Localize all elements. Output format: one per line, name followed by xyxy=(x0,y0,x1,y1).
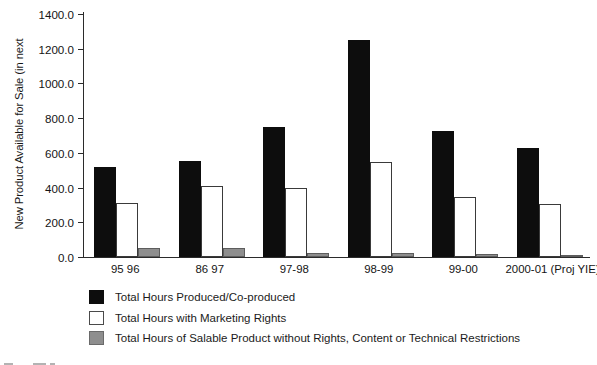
bar xyxy=(285,188,307,257)
y-axis-tick-label: 1000.0 xyxy=(39,77,74,90)
bar xyxy=(263,127,285,257)
y-axis-tick-label: 600.0 xyxy=(45,146,74,159)
bar xyxy=(517,148,539,257)
y-axis-tick xyxy=(78,83,84,84)
bar xyxy=(116,203,138,257)
legend-item: Total Hours Produced/Co-produced xyxy=(89,287,559,308)
bar xyxy=(179,161,201,257)
x-axis-tick-label: 2000-01 (Proj YIE) xyxy=(506,263,591,275)
legend-label: Total Hours with Marketing Rights xyxy=(115,312,286,324)
bar-group xyxy=(432,14,498,257)
bar xyxy=(348,40,370,257)
bar xyxy=(370,162,392,257)
y-axis-tick-label: 800.0 xyxy=(45,112,74,125)
bar xyxy=(94,167,116,257)
chart-legend: Total Hours Produced/Co-producedTotal Ho… xyxy=(89,287,559,349)
legend-swatch xyxy=(89,290,104,304)
y-axis-tick-label: 1400.0 xyxy=(39,8,74,21)
x-axis-tick-label: 97-98 xyxy=(252,263,337,275)
x-axis-tick-label: 99-00 xyxy=(421,263,506,275)
bar xyxy=(201,186,223,257)
bar xyxy=(392,253,414,257)
bar-chart: New Product Available for Sale (in next … xyxy=(0,0,597,365)
y-axis-tick xyxy=(78,188,84,189)
x-axis-line xyxy=(83,257,590,258)
legend-item: Total Hours with Marketing Rights xyxy=(89,308,559,329)
legend-swatch xyxy=(89,311,104,325)
y-axis-title: New Product Available for Sale (in next xyxy=(13,9,25,259)
bar xyxy=(539,204,561,257)
y-axis-tick xyxy=(78,14,84,15)
y-axis-tick-label: 1200.0 xyxy=(39,42,74,55)
y-axis-tick xyxy=(78,153,84,154)
x-axis-tick-label: 98-99 xyxy=(337,263,422,275)
legend-label: Total Hours Produced/Co-produced xyxy=(115,291,295,303)
y-axis-tick xyxy=(78,222,84,223)
legend-label: Total Hours of Salable Product without R… xyxy=(115,332,520,344)
y-axis-tick-label: 0.0 xyxy=(58,251,74,264)
legend-item: Total Hours of Salable Product without R… xyxy=(89,328,559,349)
bar xyxy=(223,248,245,257)
bar xyxy=(307,253,329,257)
bar-group xyxy=(179,14,245,257)
bar-group xyxy=(94,14,160,257)
bar xyxy=(454,197,476,257)
bar-group xyxy=(348,14,414,257)
bar-group xyxy=(263,14,329,257)
y-axis-tick xyxy=(78,118,84,119)
legend-swatch xyxy=(89,331,104,345)
plot-area: 0.0200.0400.0600.0800.01000.01200.01400.… xyxy=(83,14,590,257)
bar xyxy=(138,248,160,257)
bar xyxy=(476,254,498,257)
bar xyxy=(561,255,583,257)
x-axis-tick-label: 86 97 xyxy=(168,263,253,275)
y-axis-tick-label: 200.0 xyxy=(45,216,74,229)
x-axis-tick-label: 95 96 xyxy=(83,263,168,275)
y-axis-tick-label: 400.0 xyxy=(45,181,74,194)
y-axis-tick xyxy=(78,257,84,258)
bar-group xyxy=(517,14,583,257)
y-axis-tick xyxy=(78,49,84,50)
bar xyxy=(432,131,454,257)
